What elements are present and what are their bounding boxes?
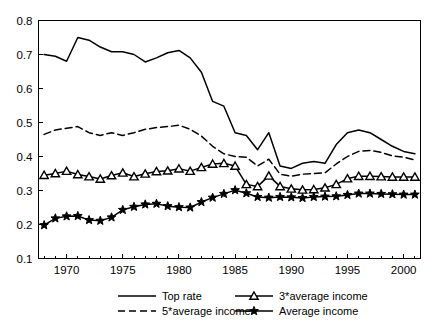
legend-item[interactable]: 3*average income xyxy=(235,290,368,302)
data-point-marker-star xyxy=(231,186,240,194)
data-point-marker-star xyxy=(264,193,273,201)
data-point-marker-star xyxy=(250,306,259,314)
data-point-marker-triangle xyxy=(265,172,273,179)
data-point-marker-star xyxy=(276,192,285,200)
data-point-marker-star xyxy=(343,190,352,198)
y-tick-label: 0.7 xyxy=(17,49,33,61)
data-point-marker-triangle xyxy=(119,169,127,176)
line-chart: 0.10.20.30.40.50.60.70.81970197519801985… xyxy=(0,0,440,332)
data-point-marker-triangle xyxy=(62,167,70,174)
data-point-marker-star xyxy=(186,203,195,211)
data-point-marker-star xyxy=(399,190,408,198)
legend-label: Average income xyxy=(279,305,358,317)
legend-label: 3*average income xyxy=(279,290,368,302)
data-point-marker-star xyxy=(141,200,150,208)
data-point-marker-star xyxy=(332,192,341,200)
data-point-marker-star xyxy=(62,212,71,220)
y-tick-label: 0.5 xyxy=(17,117,33,129)
data-point-marker-star xyxy=(298,193,307,201)
data-point-marker-star xyxy=(40,221,49,229)
x-tick-label: 2000 xyxy=(391,264,417,276)
y-tick-label: 0.4 xyxy=(17,151,34,163)
data-point-marker-triangle xyxy=(242,180,250,187)
x-tick-label: 1970 xyxy=(54,264,80,276)
legend-item[interactable]: Average income xyxy=(235,305,358,317)
x-axis: 1970197519801985199019952000 xyxy=(44,254,416,276)
data-point-marker-star xyxy=(197,197,206,205)
series-average-income xyxy=(40,186,420,229)
data-point-marker-star xyxy=(411,190,420,198)
data-point-marker-star xyxy=(388,190,397,198)
data-point-marker-triangle xyxy=(332,180,340,187)
y-tick-label: 0.1 xyxy=(17,253,33,265)
plot-frame xyxy=(39,21,421,259)
series-5-average-income xyxy=(44,125,415,176)
y-tick-label: 0.2 xyxy=(17,219,33,231)
data-point-marker-star xyxy=(152,199,161,207)
data-point-marker-star xyxy=(73,211,82,219)
x-tick-label: 1990 xyxy=(278,264,304,276)
x-tick-label: 1985 xyxy=(222,264,248,276)
data-point-marker-star xyxy=(354,189,363,197)
legend-label: Top rate xyxy=(162,290,202,302)
y-tick-label: 0.8 xyxy=(17,15,33,27)
data-point-marker-star xyxy=(309,192,318,200)
series-3-average-income xyxy=(40,159,419,193)
y-tick-label: 0.6 xyxy=(17,83,33,95)
data-point-marker-star xyxy=(130,202,139,210)
chart-container: 0.10.20.30.40.50.60.70.81970197519801985… xyxy=(0,0,440,332)
data-point-marker-star xyxy=(208,193,217,201)
x-tick-label: 1995 xyxy=(335,264,361,276)
data-point-marker-star xyxy=(253,192,262,200)
data-point-marker-star xyxy=(85,215,94,223)
series-top-rate xyxy=(44,38,415,169)
data-point-marker-star xyxy=(163,202,172,210)
series-line xyxy=(44,38,415,169)
legend-item[interactable]: Top rate xyxy=(118,290,202,302)
x-tick-label: 1975 xyxy=(110,264,136,276)
data-point-marker-star xyxy=(321,192,330,200)
data-point-marker-star xyxy=(377,189,386,197)
legend-item[interactable]: 5*average income xyxy=(118,305,251,317)
data-point-marker-star xyxy=(242,189,251,197)
data-point-marker-star xyxy=(175,203,184,211)
data-point-marker-triangle xyxy=(175,165,183,172)
x-tick-label: 1980 xyxy=(166,264,192,276)
data-point-marker-star xyxy=(220,189,229,197)
series-line xyxy=(44,125,415,176)
data-point-marker-star xyxy=(96,216,105,224)
legend: Top rate3*average income5*average income… xyxy=(118,290,368,317)
data-point-marker-star xyxy=(107,213,116,221)
data-point-marker-star xyxy=(287,193,296,201)
y-tick-label: 0.3 xyxy=(17,185,33,197)
data-point-marker-star xyxy=(366,189,375,197)
